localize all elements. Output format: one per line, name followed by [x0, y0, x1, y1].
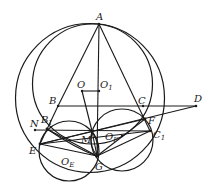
label-o: O	[77, 79, 85, 90]
segment-eg	[40, 144, 97, 156]
label-e: E	[28, 145, 37, 156]
label-b: B	[48, 95, 56, 106]
label-o1: O1	[100, 79, 113, 92]
label-c1: C1	[153, 129, 165, 142]
point-g	[96, 155, 99, 158]
segment-ac	[99, 24, 150, 131]
label-m: M	[80, 134, 92, 145]
point-c1	[149, 130, 152, 133]
geometry-diagram: A O O1 B C D N B1 E M G F C1 OE OF	[0, 0, 214, 195]
point-n	[34, 129, 36, 131]
point-a	[98, 23, 100, 25]
diagram-canvas: A O O1 B C D N B1 E M G F C1 OE OF	[0, 0, 214, 195]
point-b	[57, 105, 59, 107]
point-d	[195, 105, 198, 108]
point-b1	[46, 128, 49, 131]
label-a: A	[95, 11, 103, 22]
point-o-f	[121, 135, 123, 137]
label-g: G	[95, 161, 103, 172]
label-n: N	[29, 118, 40, 129]
point-e	[39, 143, 42, 146]
label-f: F	[147, 115, 156, 126]
point-o1	[98, 90, 100, 92]
point-m	[91, 130, 94, 133]
label-d: D	[193, 93, 202, 104]
point-f	[144, 118, 147, 121]
label-b1: B1	[40, 114, 53, 127]
segment-ab	[58, 24, 99, 106]
label-c: C	[138, 95, 146, 106]
point-o	[81, 90, 83, 92]
